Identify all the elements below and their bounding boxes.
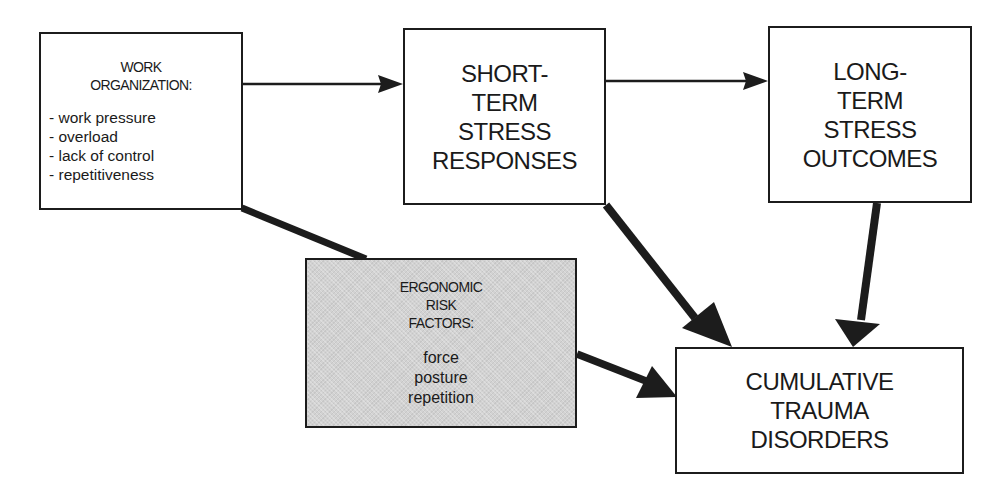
title-line: RISK [400,296,483,314]
title-line: ORGANIZATION: [90,76,192,94]
title-line: CUMULATIVE [746,367,894,396]
list-item: repetition [408,388,474,408]
title-line: FACTORS: [400,314,483,332]
title-line: TRAUMA [746,396,894,425]
list-item: posture [408,368,474,388]
ctd-title: CUMULATIVE TRAUMA DISORDERS [746,367,894,454]
list-item: - overload [49,127,156,146]
arrow-short-term-to-ctd [606,205,732,347]
title-line: STRESS [432,117,577,146]
title-line: DISORDERS [746,425,894,454]
node-ergonomic-risk-factors: ERGONOMIC RISK FACTORS: force posture re… [305,258,577,428]
title-line: WORK [90,58,192,76]
title-line: STRESS [803,115,938,144]
title-line: RESPONSES [432,146,577,175]
title-line: TERM [432,88,577,117]
title-line: LONG- [803,57,938,86]
work-organization-list: - work pressure - overload - lack of con… [41,108,156,184]
list-item: - lack of control [49,146,156,165]
ergonomic-title: ERGONOMIC RISK FACTORS: [400,278,483,332]
list-item: - work pressure [49,108,156,127]
node-work-organization: WORK ORGANIZATION: - work pressure - ove… [39,32,243,210]
list-item: force [408,348,474,368]
node-long-term-stress-outcomes: LONG- TERM STRESS OUTCOMES [768,26,972,203]
arrow-work-to-short-term [243,75,403,93]
list-item: - repetitiveness [49,165,156,184]
title-line: TERM [803,86,938,115]
work-organization-title: WORK ORGANIZATION: [90,58,192,94]
title-line: SHORT- [432,59,577,88]
short-term-title: SHORT- TERM STRESS RESPONSES [432,59,577,175]
arrow-long-term-to-ctd [835,203,880,347]
node-cumulative-trauma-disorders: CUMULATIVE TRAUMA DISORDERS [675,347,964,474]
line-work-to-ergonomic [242,208,366,259]
arrow-short-term-to-long-term [606,72,768,90]
title-line: OUTCOMES [803,144,938,173]
title-line: ERGONOMIC [400,278,483,296]
long-term-title: LONG- TERM STRESS OUTCOMES [803,57,938,173]
arrow-ergonomic-to-ctd [577,354,677,398]
ergonomic-list: force posture repetition [408,348,474,408]
diagram-canvas: WORK ORGANIZATION: - work pressure - ove… [0,0,995,491]
node-short-term-stress-responses: SHORT- TERM STRESS RESPONSES [403,28,606,205]
